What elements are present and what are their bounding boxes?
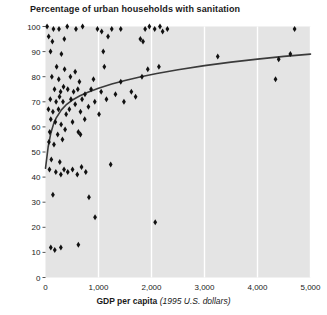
x-axis-label: GDP per capita (1995 U.S. dollars) xyxy=(0,296,327,306)
sanitation-gdp-scatter-chart: Percentage of urban households with sani… xyxy=(0,0,327,315)
svg-text:30: 30 xyxy=(32,198,41,207)
svg-text:70: 70 xyxy=(32,98,41,107)
x-axis-label-main: GDP per capita xyxy=(96,296,157,306)
svg-text:80: 80 xyxy=(32,73,41,82)
svg-text:10: 10 xyxy=(32,248,41,257)
svg-text:20: 20 xyxy=(32,223,41,232)
svg-text:100: 100 xyxy=(27,23,41,32)
x-axis-tick-labels: 01,0002,0003,0004,0005,000 xyxy=(43,283,321,292)
svg-text:0: 0 xyxy=(36,274,41,283)
y-axis-tick-labels: 0102030405060708090100 xyxy=(27,23,41,283)
svg-text:40: 40 xyxy=(32,173,41,182)
x-axis-label-unit: (1995 U.S. dollars) xyxy=(160,296,231,306)
svg-text:50: 50 xyxy=(32,148,41,157)
svg-text:90: 90 xyxy=(32,48,41,57)
y-axis-tick-marks xyxy=(43,27,46,278)
svg-text:0: 0 xyxy=(43,283,48,292)
svg-text:5,000: 5,000 xyxy=(300,283,321,292)
plot-background xyxy=(46,27,311,278)
svg-text:2,000: 2,000 xyxy=(141,283,162,292)
svg-text:4,000: 4,000 xyxy=(247,283,268,292)
plot-canvas: 0102030405060708090100 01,0002,0003,0004… xyxy=(0,0,327,315)
svg-text:60: 60 xyxy=(32,123,41,132)
svg-text:3,000: 3,000 xyxy=(194,283,215,292)
svg-text:1,000: 1,000 xyxy=(88,283,109,292)
